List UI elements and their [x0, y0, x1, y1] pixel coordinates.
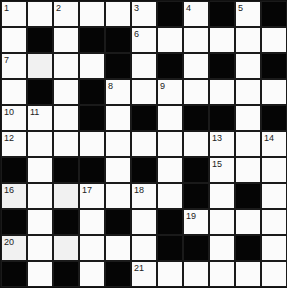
answer-cell[interactable] — [131, 235, 157, 261]
answer-cell[interactable] — [235, 53, 261, 79]
answer-cell[interactable] — [183, 27, 209, 53]
black-cell — [105, 27, 131, 53]
answer-cell[interactable]: 5 — [235, 1, 261, 27]
answer-cell[interactable] — [261, 157, 287, 183]
answer-cell[interactable] — [261, 27, 287, 53]
answer-cell[interactable]: 17 — [79, 183, 105, 209]
answer-cell[interactable] — [105, 1, 131, 27]
answer-cell[interactable]: 20 — [1, 235, 27, 261]
answer-cell[interactable]: 7 — [1, 53, 27, 79]
answer-cell[interactable] — [105, 157, 131, 183]
answer-cell[interactable] — [27, 261, 53, 287]
black-cell — [235, 183, 261, 209]
answer-cell[interactable] — [209, 261, 235, 287]
answer-cell[interactable] — [79, 235, 105, 261]
answer-cell[interactable]: 10 — [1, 105, 27, 131]
clue-number: 4 — [186, 3, 191, 13]
answer-cell[interactable] — [105, 131, 131, 157]
answer-cell[interactable] — [235, 131, 261, 157]
black-cell — [1, 261, 27, 287]
clue-number: 11 — [30, 107, 39, 117]
answer-cell[interactable]: 8 — [105, 79, 131, 105]
answer-cell[interactable] — [209, 79, 235, 105]
answer-cell[interactable] — [53, 183, 79, 209]
answer-cell[interactable] — [53, 53, 79, 79]
answer-cell[interactable] — [183, 261, 209, 287]
answer-cell[interactable]: 4 — [183, 1, 209, 27]
answer-cell[interactable] — [53, 105, 79, 131]
answer-cell[interactable] — [79, 209, 105, 235]
answer-cell[interactable] — [1, 79, 27, 105]
answer-cell[interactable]: 18 — [131, 183, 157, 209]
answer-cell[interactable] — [261, 209, 287, 235]
answer-cell[interactable] — [261, 261, 287, 287]
answer-cell[interactable]: 13 — [209, 131, 235, 157]
answer-cell[interactable] — [53, 79, 79, 105]
answer-cell[interactable] — [27, 235, 53, 261]
answer-cell[interactable] — [27, 1, 53, 27]
answer-cell[interactable] — [79, 1, 105, 27]
answer-cell[interactable]: 6 — [131, 27, 157, 53]
answer-cell[interactable] — [53, 27, 79, 53]
answer-cell[interactable] — [157, 27, 183, 53]
answer-cell[interactable] — [131, 79, 157, 105]
black-cell — [27, 27, 53, 53]
answer-cell[interactable]: 21 — [131, 261, 157, 287]
answer-cell[interactable] — [105, 105, 131, 131]
answer-cell[interactable] — [131, 131, 157, 157]
answer-cell[interactable]: 15 — [209, 157, 235, 183]
answer-cell[interactable] — [157, 105, 183, 131]
black-cell — [53, 157, 79, 183]
answer-cell[interactable]: 3 — [131, 1, 157, 27]
answer-cell[interactable]: 2 — [53, 1, 79, 27]
answer-cell[interactable] — [157, 261, 183, 287]
answer-cell[interactable] — [27, 157, 53, 183]
answer-cell[interactable] — [157, 183, 183, 209]
answer-cell[interactable]: 19 — [183, 209, 209, 235]
answer-cell[interactable] — [27, 131, 53, 157]
answer-cell[interactable] — [105, 235, 131, 261]
black-cell — [27, 79, 53, 105]
answer-cell[interactable] — [157, 157, 183, 183]
answer-cell[interactable] — [261, 79, 287, 105]
answer-cell[interactable] — [53, 235, 79, 261]
answer-cell[interactable] — [183, 53, 209, 79]
black-cell — [261, 1, 287, 27]
answer-cell[interactable] — [105, 183, 131, 209]
answer-cell[interactable] — [235, 157, 261, 183]
answer-cell[interactable] — [209, 209, 235, 235]
answer-cell[interactable]: 12 — [1, 131, 27, 157]
answer-cell[interactable] — [27, 209, 53, 235]
answer-cell[interactable]: 9 — [157, 79, 183, 105]
answer-cell[interactable] — [157, 131, 183, 157]
answer-cell[interactable] — [209, 27, 235, 53]
answer-cell[interactable] — [27, 183, 53, 209]
answer-cell[interactable]: 1 — [1, 1, 27, 27]
answer-cell[interactable] — [261, 235, 287, 261]
clue-number: 2 — [56, 3, 61, 13]
answer-cell[interactable] — [79, 53, 105, 79]
answer-cell[interactable] — [79, 131, 105, 157]
answer-cell[interactable] — [235, 79, 261, 105]
answer-cell[interactable]: 16 — [1, 183, 27, 209]
black-cell — [131, 157, 157, 183]
clue-number: 7 — [4, 55, 9, 65]
answer-cell[interactable]: 14 — [261, 131, 287, 157]
answer-cell[interactable] — [53, 131, 79, 157]
answer-cell[interactable] — [261, 183, 287, 209]
answer-cell[interactable] — [235, 209, 261, 235]
answer-cell[interactable] — [209, 183, 235, 209]
answer-cell[interactable] — [235, 105, 261, 131]
answer-cell[interactable] — [131, 209, 157, 235]
answer-cell[interactable] — [235, 27, 261, 53]
answer-cell[interactable] — [235, 261, 261, 287]
answer-cell[interactable] — [27, 53, 53, 79]
clue-number: 13 — [212, 133, 222, 143]
answer-cell[interactable]: 11 — [27, 105, 53, 131]
answer-cell[interactable] — [183, 79, 209, 105]
answer-cell[interactable] — [131, 53, 157, 79]
answer-cell[interactable] — [183, 131, 209, 157]
answer-cell[interactable] — [1, 27, 27, 53]
answer-cell[interactable] — [209, 235, 235, 261]
answer-cell[interactable] — [79, 261, 105, 287]
